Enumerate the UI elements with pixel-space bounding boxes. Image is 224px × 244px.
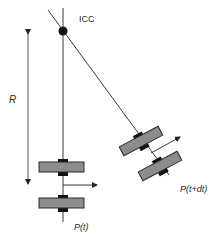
wheel-icon <box>39 198 84 208</box>
wheel-icon <box>119 126 163 155</box>
icc-label: ICC <box>79 14 95 24</box>
wheel-icon <box>138 151 182 180</box>
robot-at-t-dt <box>118 124 184 185</box>
diagonal-radius-line <box>48 10 169 175</box>
wheel-icon <box>39 162 84 172</box>
radius-label: R <box>9 94 16 105</box>
robot-at-t <box>39 159 97 212</box>
pose-t-label: P(t) <box>74 222 89 232</box>
pose-t-dt-label: P(t+dt) <box>180 184 207 194</box>
icc-diagram: ICC R P(t) P(t+dt) <box>0 0 224 244</box>
icc-point <box>59 27 68 36</box>
